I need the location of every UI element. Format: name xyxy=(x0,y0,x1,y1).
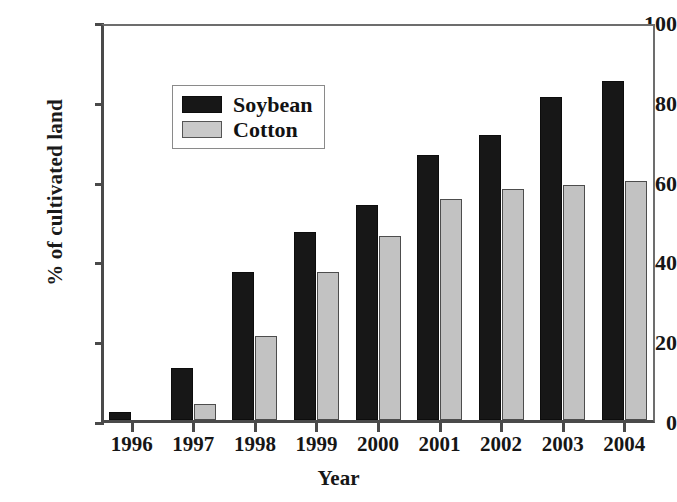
x-axis-tick xyxy=(377,423,380,432)
legend-swatch-soybean xyxy=(182,96,222,113)
x-axis-tick-label: 2002 xyxy=(469,432,533,457)
x-axis-tick xyxy=(500,423,503,432)
bar-chart-figure: % of cultivated land 020406080100 199619… xyxy=(0,0,677,502)
x-axis-tick-label: 2000 xyxy=(346,432,410,457)
x-axis-tick-label: 1996 xyxy=(100,432,164,457)
bar-cotton-1998 xyxy=(255,336,277,420)
x-axis-title: Year xyxy=(0,466,677,491)
bar-cotton-1999 xyxy=(317,272,339,420)
plot-area xyxy=(101,24,655,423)
legend-label-soybean: Soybean xyxy=(233,94,312,116)
bar-soybean-2002 xyxy=(479,135,501,420)
bar-cotton-2003 xyxy=(563,185,585,420)
legend-swatch-cotton xyxy=(182,121,222,138)
bar-soybean-1999 xyxy=(294,232,316,420)
x-axis-tick xyxy=(315,423,318,432)
bar-soybean-2000 xyxy=(356,205,378,420)
y-axis-title: % of cultivated land xyxy=(43,63,68,323)
bar-soybean-2004 xyxy=(602,81,624,420)
x-axis-tick-label: 2001 xyxy=(408,432,472,457)
bar-soybean-1997 xyxy=(171,368,193,420)
x-axis-tick xyxy=(131,423,134,432)
x-axis-tick-label: 2004 xyxy=(592,432,656,457)
legend-item-cotton: Cotton xyxy=(182,117,312,142)
x-axis-tick xyxy=(623,423,626,432)
x-axis-tick xyxy=(192,423,195,432)
bar-cotton-2004 xyxy=(625,181,647,420)
bar-soybean-2001 xyxy=(417,155,439,420)
bar-soybean-2003 xyxy=(540,97,562,420)
x-axis-tick-label: 1999 xyxy=(284,432,348,457)
x-axis-tick xyxy=(562,423,565,432)
bar-cotton-2000 xyxy=(379,236,401,420)
x-axis-tick-label: 2003 xyxy=(531,432,595,457)
x-axis-tick xyxy=(439,423,442,432)
legend-label-cotton: Cotton xyxy=(233,119,298,141)
chart-legend: Soybean Cotton xyxy=(172,85,325,149)
bar-soybean-1996 xyxy=(109,412,131,420)
bar-cotton-1997 xyxy=(194,404,216,420)
x-axis-tick xyxy=(254,423,257,432)
x-axis-tick-label: 1997 xyxy=(161,432,225,457)
x-axis-tick-label: 1998 xyxy=(223,432,287,457)
bar-soybean-1998 xyxy=(232,272,254,420)
legend-item-soybean: Soybean xyxy=(182,92,312,117)
bar-cotton-2002 xyxy=(502,189,524,420)
bar-cotton-2001 xyxy=(440,199,462,420)
